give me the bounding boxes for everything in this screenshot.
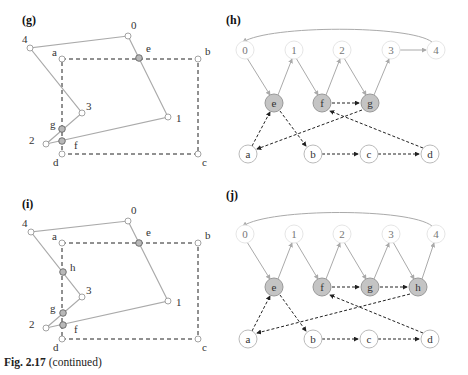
vertex-2	[43, 325, 49, 331]
svg-text:g: g	[50, 302, 56, 314]
svg-text:2: 2	[29, 134, 35, 146]
intersection-h	[60, 269, 67, 276]
svg-text:d: d	[427, 333, 433, 345]
vertex-b	[195, 240, 201, 246]
caption-text: (continued)	[46, 356, 102, 368]
vertex-3	[79, 294, 85, 300]
panel-h: (h)	[226, 13, 445, 163]
vertex-a	[59, 240, 65, 246]
panel-label-i: (i)	[22, 197, 33, 211]
edge-4-0	[243, 29, 432, 42]
vertex-3	[79, 110, 85, 116]
svg-text:1: 1	[176, 296, 182, 308]
panel-label-j: (j)	[226, 188, 238, 202]
svg-text:g: g	[367, 281, 373, 293]
svg-text:c: c	[367, 333, 372, 345]
svg-text:f: f	[320, 281, 324, 293]
edge-4-0	[243, 213, 432, 227]
rectangle-abcd	[62, 243, 198, 339]
svg-text:1: 1	[291, 228, 297, 240]
vertex-d	[59, 151, 65, 157]
svg-text:b: b	[205, 229, 211, 241]
panel-label-h: (h)	[226, 13, 241, 27]
svg-text:0: 0	[131, 19, 137, 31]
svg-text:b: b	[205, 45, 211, 57]
panel-i: (i) 0 4 a e b h 3 1	[22, 197, 211, 353]
svg-text:a: a	[52, 230, 57, 242]
vertex-1	[165, 298, 171, 304]
svg-text:d: d	[53, 341, 59, 353]
intersection-e	[136, 240, 143, 247]
svg-text:c: c	[367, 148, 372, 160]
svg-text:e: e	[272, 97, 277, 109]
svg-text:h: h	[415, 281, 421, 293]
intersection-g	[60, 310, 67, 317]
svg-text:f: f	[74, 323, 78, 335]
intersection-g	[59, 126, 66, 133]
svg-text:e: e	[146, 42, 151, 54]
svg-text:g: g	[367, 97, 373, 109]
svg-text:3: 3	[86, 284, 92, 296]
svg-text:d: d	[53, 156, 59, 168]
svg-text:c: c	[202, 156, 207, 168]
svg-text:h: h	[70, 261, 76, 273]
svg-text:1: 1	[291, 44, 297, 56]
svg-text:3: 3	[86, 100, 92, 112]
vertex-c	[195, 336, 201, 342]
svg-text:e: e	[146, 226, 151, 238]
panel-label-g: (g)	[22, 13, 36, 27]
svg-text:f: f	[74, 139, 78, 151]
svg-text:1: 1	[176, 112, 182, 124]
svg-text:a: a	[52, 46, 57, 58]
svg-text:4: 4	[433, 228, 439, 240]
vertex-4	[28, 229, 34, 235]
svg-text:b: b	[310, 148, 316, 160]
vertex-4	[27, 45, 33, 51]
svg-text:a: a	[246, 148, 251, 160]
svg-text:2: 2	[339, 44, 345, 56]
svg-text:b: b	[310, 333, 316, 345]
caption-number: Fig. 2.17	[4, 356, 46, 368]
svg-text:3: 3	[388, 44, 394, 56]
figure-canvas: (g) 0 4 a e b 3 1	[0, 0, 468, 375]
svg-text:2: 2	[29, 318, 35, 330]
svg-text:0: 0	[242, 44, 248, 56]
panel-j: (j)	[226, 188, 445, 348]
svg-text:4: 4	[22, 217, 28, 229]
vertex-1	[165, 114, 171, 120]
vertex-a	[59, 56, 65, 62]
intersection-f	[60, 322, 67, 329]
svg-text:0: 0	[242, 228, 248, 240]
svg-text:a: a	[246, 333, 251, 345]
vertex-d	[59, 336, 65, 342]
svg-text:3: 3	[388, 228, 394, 240]
svg-text:d: d	[427, 148, 433, 160]
svg-text:e: e	[272, 281, 277, 293]
vertex-b	[195, 56, 201, 62]
svg-text:c: c	[202, 341, 207, 353]
intersection-e	[136, 55, 143, 62]
svg-text:4: 4	[433, 44, 439, 56]
rectangle-abcd	[62, 59, 198, 154]
panel-g: (g) 0 4 a e b 3 1	[22, 13, 211, 168]
vertex-2	[43, 141, 49, 147]
vertex-0	[125, 33, 131, 39]
svg-text:4: 4	[22, 33, 28, 45]
intersection-f	[59, 138, 66, 145]
svg-text:2: 2	[339, 228, 345, 240]
svg-text:f: f	[320, 97, 324, 109]
figure-caption: Fig. 2.17 (continued)	[4, 356, 102, 368]
vertex-c	[195, 151, 201, 157]
svg-text:0: 0	[131, 204, 137, 216]
vertex-0	[125, 218, 131, 224]
svg-text:g: g	[50, 118, 56, 130]
